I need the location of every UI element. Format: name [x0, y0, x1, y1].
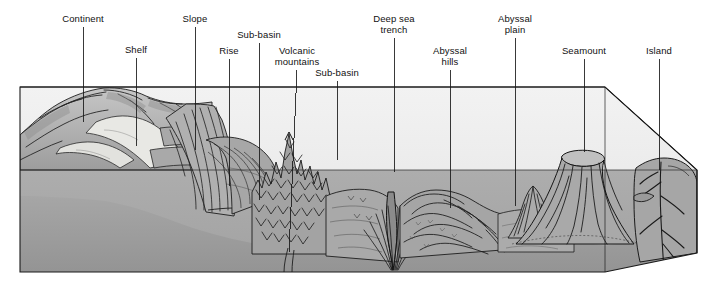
- island: [634, 158, 697, 270]
- label-island: Island: [646, 45, 672, 56]
- label-deep-sea-trench: Deep sea trench: [373, 13, 414, 35]
- ocean-basin-block-diagram: [0, 0, 716, 288]
- label-seamount: Seamount: [562, 45, 606, 56]
- label-abyssal-plain: Abyssal plain: [498, 13, 532, 35]
- figure-canvas: ContinentShelfSlopeRiseSub-basinVolcanic…: [0, 0, 716, 288]
- label-sub-basin-1: Sub-basin: [237, 29, 281, 40]
- label-sub-basin-2: Sub-basin: [315, 67, 359, 78]
- label-rise: Rise: [219, 45, 238, 56]
- label-abyssal-hills: Abyssal hills: [433, 45, 467, 67]
- label-continent: Continent: [62, 13, 104, 24]
- label-volcanic-mountains: Volcanic mountains: [275, 45, 320, 67]
- label-slope: Slope: [183, 13, 208, 24]
- label-shelf: Shelf: [125, 44, 147, 55]
